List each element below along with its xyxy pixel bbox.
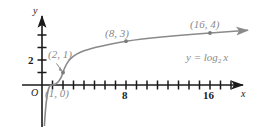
point-label-16-4: (16, 4) bbox=[190, 19, 219, 30]
x-tick-label-16: 16 bbox=[203, 90, 214, 101]
point-label-2-1: (2, 1) bbox=[48, 49, 72, 60]
log-curve bbox=[44, 30, 248, 126]
point-8-3-marker bbox=[124, 39, 128, 43]
x-axis-label: x bbox=[241, 89, 245, 99]
equation-label: y = log2x bbox=[186, 52, 228, 64]
y-tick-label-2: 2 bbox=[28, 55, 34, 66]
point-label-1-0: (1, 0) bbox=[45, 88, 69, 99]
equation-main: y = log bbox=[186, 51, 218, 63]
x-tick-label-8: 8 bbox=[122, 90, 128, 101]
point-label-8-3: (8, 3) bbox=[105, 28, 129, 39]
logarithm-graph-figure bbox=[0, 0, 260, 133]
point-2-1-leader bbox=[57, 64, 63, 72]
y-axis-label: y bbox=[33, 6, 37, 16]
equation-base: 2 bbox=[218, 57, 221, 64]
point-16-4-marker bbox=[208, 31, 212, 35]
log-curve-path bbox=[44, 30, 248, 126]
origin-label: O bbox=[31, 88, 38, 98]
equation-arg: x bbox=[223, 51, 228, 63]
graph-canvas bbox=[0, 0, 260, 133]
